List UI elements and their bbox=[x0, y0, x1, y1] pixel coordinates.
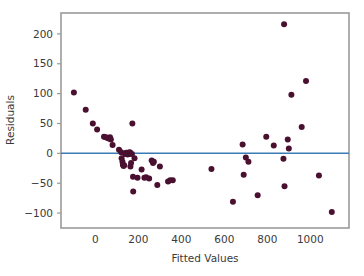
scatter-point bbox=[255, 192, 261, 198]
scatter-point bbox=[245, 159, 251, 165]
scatter-point bbox=[303, 78, 309, 84]
scatter-point bbox=[230, 199, 236, 205]
residual-scatter-chart: −100−50050100150200 02004006008001000 Fi… bbox=[0, 0, 364, 276]
y-tick-label: 50 bbox=[40, 117, 53, 129]
x-tick-label: 1000 bbox=[297, 233, 324, 245]
scatter-point bbox=[208, 166, 214, 172]
scatter-point bbox=[121, 162, 127, 168]
scatter-point bbox=[151, 159, 157, 165]
scatter-point bbox=[281, 21, 287, 27]
y-axis-title: Residuals bbox=[4, 95, 16, 145]
y-tick-label: −50 bbox=[31, 177, 53, 189]
x-tick-label: 800 bbox=[257, 233, 277, 245]
scatter-point bbox=[282, 183, 288, 189]
scatter-point bbox=[286, 146, 292, 152]
scatter-point bbox=[299, 124, 305, 130]
scatter-point bbox=[94, 126, 100, 132]
x-tick-label: 600 bbox=[214, 233, 234, 245]
scatter-point bbox=[135, 175, 141, 181]
scatter-point bbox=[146, 175, 152, 181]
scatter-point bbox=[132, 155, 138, 161]
scatter-point bbox=[83, 107, 89, 113]
scatter-point bbox=[90, 120, 96, 126]
y-tick-label: 150 bbox=[33, 57, 53, 69]
scatter-point bbox=[240, 141, 246, 147]
y-tick-label: 0 bbox=[46, 147, 53, 159]
scatter-point bbox=[263, 134, 269, 140]
scatter-point bbox=[154, 182, 160, 188]
scatter-point bbox=[110, 142, 116, 148]
scatter-point bbox=[288, 92, 294, 98]
scatter-point bbox=[280, 156, 286, 162]
scatter-point bbox=[241, 172, 247, 178]
scatter-point bbox=[170, 177, 176, 183]
scatter-point bbox=[271, 143, 277, 149]
y-tick-label: 100 bbox=[33, 87, 53, 99]
scatter-point bbox=[329, 209, 335, 215]
scatter-point bbox=[129, 120, 135, 126]
y-tick-label: 200 bbox=[33, 28, 53, 40]
scatter-point bbox=[139, 166, 145, 172]
scatter-point bbox=[157, 163, 163, 169]
x-tick-label: 0 bbox=[92, 233, 99, 245]
x-tick-label: 200 bbox=[128, 233, 148, 245]
y-tick-label: −100 bbox=[24, 207, 53, 219]
scatter-point bbox=[71, 89, 77, 95]
scatter-point bbox=[285, 137, 291, 143]
x-tick-label: 400 bbox=[171, 233, 191, 245]
x-axis-title: Fitted Values bbox=[171, 252, 238, 264]
scatter-point bbox=[316, 172, 322, 178]
residual-plot-screenshot: −100−50050100150200 02004006008001000 Fi… bbox=[0, 0, 364, 276]
scatter-point bbox=[108, 137, 114, 143]
scatter-point bbox=[130, 189, 136, 195]
